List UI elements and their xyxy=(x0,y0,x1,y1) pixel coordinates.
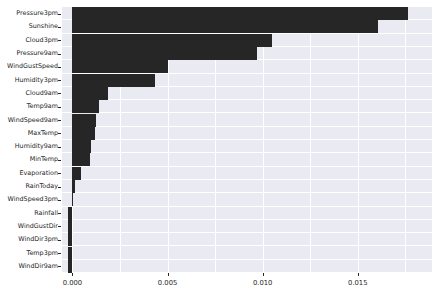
y-tick-label: WindDir9am xyxy=(0,263,58,270)
gridline-horizontal xyxy=(62,152,432,153)
gridline-horizontal xyxy=(62,112,432,113)
x-tick-label: 0.000 xyxy=(63,279,82,287)
bar xyxy=(72,180,74,193)
y-tick-mark xyxy=(58,226,61,227)
y-tick-mark xyxy=(58,187,61,188)
y-tick-mark xyxy=(58,160,61,161)
x-tick-label: 0.015 xyxy=(348,279,367,287)
y-tick-mark xyxy=(58,80,61,81)
y-tick-label: Temp3pm xyxy=(0,250,58,257)
y-tick-label: WindGustSpeed xyxy=(0,63,58,70)
gridline-vertical xyxy=(405,7,406,273)
y-tick-label: Pressure3pm xyxy=(0,10,58,17)
x-tick-label: 0.005 xyxy=(158,279,177,287)
y-tick-mark xyxy=(58,40,61,41)
gridline-vertical xyxy=(358,7,359,273)
y-tick-mark xyxy=(58,133,61,134)
y-tick-label: RainToday xyxy=(0,183,58,190)
gridline-vertical xyxy=(263,7,264,273)
y-tick-label: Cloud3pm xyxy=(0,37,58,44)
y-tick-mark xyxy=(58,120,61,121)
y-tick-label: MaxTemp xyxy=(0,130,58,137)
y-tick-label: WindGustDir xyxy=(0,223,58,230)
x-tick-mark xyxy=(168,273,169,276)
x-tick-mark xyxy=(263,273,264,276)
bar xyxy=(72,47,256,60)
y-tick-label: WindSpeed3pm xyxy=(0,196,58,203)
gridline-horizontal xyxy=(62,245,432,246)
y-tick-mark xyxy=(58,147,61,148)
y-tick-label: Cloud9am xyxy=(0,90,58,97)
x-tick-mark xyxy=(72,273,73,276)
bar xyxy=(72,74,155,87)
bar xyxy=(68,207,72,220)
y-tick-mark xyxy=(58,14,61,15)
bar xyxy=(72,153,90,166)
gridline-horizontal xyxy=(62,259,432,260)
y-tick-mark xyxy=(58,266,61,267)
bar xyxy=(72,114,96,127)
y-tick-label: WindSpeed9am xyxy=(0,117,58,124)
gridline-horizontal xyxy=(62,139,432,140)
y-tick-label: Temp9am xyxy=(0,103,58,110)
gridline-horizontal xyxy=(62,219,432,220)
y-tick-label: Evaporation xyxy=(0,170,58,177)
bar xyxy=(72,193,73,206)
gridline-horizontal xyxy=(62,99,432,100)
gridline-horizontal xyxy=(62,192,432,193)
bar xyxy=(72,167,81,180)
figure: Pressure3pmSunshineCloud3pmPressure9amWi… xyxy=(0,0,441,297)
bar xyxy=(72,20,377,33)
y-tick-mark xyxy=(58,173,61,174)
gridline-horizontal xyxy=(62,166,432,167)
bar xyxy=(68,260,73,273)
bar xyxy=(72,100,99,113)
y-tick-label: Rainfall xyxy=(0,210,58,217)
y-tick-mark xyxy=(58,27,61,28)
bar xyxy=(72,127,94,140)
y-tick-mark xyxy=(58,54,61,55)
y-tick-mark xyxy=(58,240,61,241)
y-tick-mark xyxy=(58,200,61,201)
plot-area xyxy=(62,7,432,273)
y-tick-mark xyxy=(58,213,61,214)
y-tick-label: MinTemp xyxy=(0,156,58,163)
gridline-vertical xyxy=(310,7,311,273)
y-tick-label: Humidity3pm xyxy=(0,77,58,84)
bar xyxy=(72,140,91,153)
gridline-horizontal xyxy=(62,179,432,180)
y-tick-mark xyxy=(58,107,61,108)
bar xyxy=(72,7,408,20)
bar xyxy=(72,60,167,73)
y-tick-label: Sunshine xyxy=(0,23,58,30)
x-tick-mark xyxy=(358,273,359,276)
bar xyxy=(68,233,72,246)
gridline-horizontal xyxy=(62,206,432,207)
gridline-horizontal xyxy=(62,126,432,127)
x-tick-label: 0.010 xyxy=(253,279,272,287)
y-tick-mark xyxy=(58,253,61,254)
y-tick-label: Humidity9am xyxy=(0,143,58,150)
y-axis-tick-labels: Pressure3pmSunshineCloud3pmPressure9amWi… xyxy=(0,7,58,273)
y-tick-mark xyxy=(58,67,61,68)
y-tick-label: WindDir3pm xyxy=(0,236,58,243)
bar xyxy=(68,247,72,260)
gridline-horizontal xyxy=(62,232,432,233)
bar xyxy=(68,220,72,233)
y-tick-label: Pressure9am xyxy=(0,50,58,57)
bar xyxy=(72,34,271,47)
y-tick-mark xyxy=(58,93,61,94)
x-axis-tick-labels: 0.0000.0050.0100.015 xyxy=(62,273,432,293)
bar xyxy=(72,87,108,100)
